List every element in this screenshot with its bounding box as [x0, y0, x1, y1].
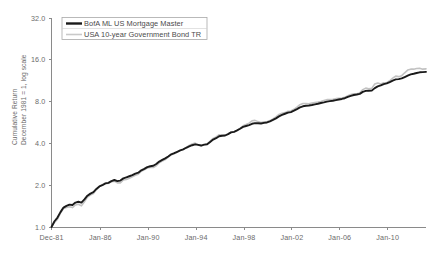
y-axis-title-line1: Cumulative Return [11, 88, 18, 145]
legend-label-bofa-ml-us-mortgage-master: BofA ML US Mortgage Master [84, 19, 184, 28]
y-tick-label: 16.0 [31, 55, 46, 64]
x-tick-label: Jan-10 [376, 233, 399, 242]
series-line-usa-10y-government-bond-tr [52, 68, 427, 227]
y-tick-label: 4.0 [35, 139, 45, 148]
x-axis-ticks: Dec-81Jan-86Jan-90Jan-94Jan-98Jan-02Jan-… [39, 227, 399, 242]
y-tick-label: 32.0 [31, 14, 46, 23]
x-tick-label: Jan-94 [185, 233, 208, 242]
x-tick-label: Jan-06 [328, 233, 351, 242]
line-chart-svg: 32.016.08.04.02.01.0 Dec-81Jan-86Jan-90J… [0, 0, 439, 255]
x-tick-label: Dec-81 [39, 233, 63, 242]
x-tick-label: Jan-86 [89, 233, 112, 242]
y-axis-title-line2: December 1981 = 1, log scale [20, 54, 28, 145]
y-axis-ticks: 32.016.08.04.02.01.0 [31, 14, 52, 232]
legend-label-usa-10y-government-bond-tr: USA 10-year Government Bond TR [84, 30, 201, 39]
x-tick-label: Jan-90 [137, 233, 160, 242]
x-tick-label: Jan-02 [280, 233, 303, 242]
chart-legend: BofA ML US Mortgage Master USA 10-year G… [62, 18, 207, 40]
y-tick-label: 1.0 [35, 223, 45, 232]
y-axis-title: Cumulative Return December 1981 = 1, log… [11, 54, 28, 145]
y-tick-label: 8.0 [35, 97, 45, 106]
series-line-bofa-ml-us-mortgage-master [52, 72, 427, 227]
x-tick-label: Jan-98 [233, 233, 256, 242]
series-group [52, 68, 427, 227]
y-tick-label: 2.0 [35, 181, 45, 190]
chart-container: 32.016.08.04.02.01.0 Dec-81Jan-86Jan-90J… [0, 0, 439, 255]
